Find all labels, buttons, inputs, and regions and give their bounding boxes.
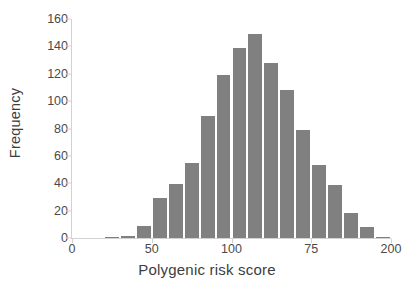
y-axis-tick-mark xyxy=(66,128,71,129)
y-axis-tick-label: 80 xyxy=(34,122,68,135)
histogram-bar xyxy=(152,198,168,238)
y-axis-title-text: Frequency xyxy=(7,87,23,157)
x-axis-tick-mark xyxy=(391,239,392,243)
histogram-bar xyxy=(232,48,248,238)
y-axis-tick-mark xyxy=(66,155,71,156)
y-axis-tick-mark xyxy=(66,210,71,211)
y-axis-tick-mark xyxy=(66,238,71,239)
x-axis-tick-mark xyxy=(232,239,233,243)
y-axis-tick-mark xyxy=(66,183,71,184)
histogram-bar xyxy=(263,63,279,238)
plot-area xyxy=(72,19,391,238)
histogram-bar xyxy=(216,75,232,238)
x-axis-tick-label: 0 xyxy=(69,243,76,256)
histogram-bar xyxy=(279,90,295,238)
y-axis-tick-labels: 160140120100806040200 xyxy=(30,0,68,293)
x-axis-tick-mark xyxy=(72,239,73,243)
y-axis-title: Frequency xyxy=(2,0,28,245)
histogram-bar xyxy=(247,34,263,238)
histogram-bar xyxy=(184,163,200,238)
histogram-bar xyxy=(168,184,184,238)
y-axis-tick-mark xyxy=(66,46,71,47)
y-axis-tick-label: 60 xyxy=(34,150,68,163)
x-axis-tick-label: 200 xyxy=(381,243,402,256)
y-axis-tick-mark xyxy=(66,19,71,20)
histogram-bar xyxy=(311,165,327,238)
y-axis-tick-label: 140 xyxy=(34,40,68,53)
y-axis-tick-label: 0 xyxy=(34,232,68,245)
x-axis-tick-mark xyxy=(311,239,312,243)
y-axis-tick-label: 20 xyxy=(34,204,68,217)
y-axis-tick-label: 100 xyxy=(34,95,68,108)
histogram-bar xyxy=(200,116,216,238)
histogram-bar xyxy=(359,227,375,238)
histogram-bar xyxy=(327,185,343,238)
x-axis-tick-mark xyxy=(152,239,153,243)
y-axis-tick-label: 160 xyxy=(34,13,68,26)
histogram-bar xyxy=(120,236,136,238)
histogram-bar xyxy=(104,237,120,238)
histogram-bar xyxy=(375,237,391,238)
y-axis-tick-mark xyxy=(66,101,71,102)
histogram-bar xyxy=(343,213,359,238)
histogram-bar xyxy=(295,130,311,238)
y-axis-tick-label: 120 xyxy=(34,68,68,81)
x-axis-tick-label: 50 xyxy=(145,243,159,256)
x-axis-title: Polygenic risk score xyxy=(0,261,414,278)
y-axis-tick-mark xyxy=(66,73,71,74)
histogram-bar xyxy=(136,226,152,238)
x-axis-tick-label: 100 xyxy=(221,243,242,256)
histogram-figure: Frequency 160140120100806040200 Polygeni… xyxy=(0,0,414,293)
x-axis-tick-label: 75 xyxy=(304,243,318,256)
y-axis-tick-label: 40 xyxy=(34,177,68,190)
